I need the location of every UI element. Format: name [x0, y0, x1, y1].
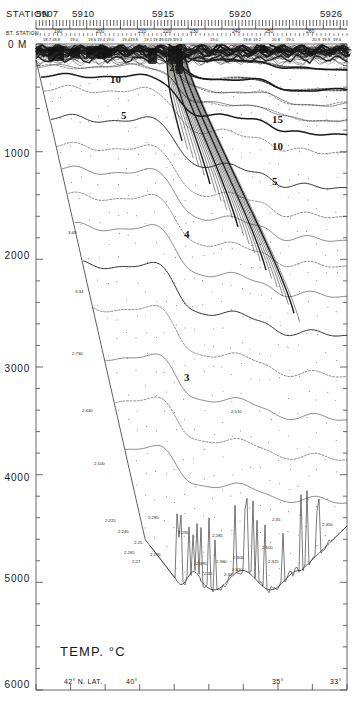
observation-point — [165, 90, 166, 91]
observation-point — [185, 328, 186, 329]
observation-point — [137, 411, 138, 412]
observation-point — [232, 149, 233, 150]
observation-point — [214, 517, 215, 518]
observation-point — [203, 255, 204, 256]
observation-point — [316, 399, 317, 400]
observation-point — [290, 553, 291, 554]
observation-point — [204, 479, 205, 480]
observation-point — [164, 253, 165, 254]
observation-point — [279, 534, 280, 535]
observation-point — [166, 546, 167, 547]
observation-point — [117, 281, 118, 282]
observation-point — [164, 372, 165, 373]
observation-point — [211, 213, 212, 214]
observation-point — [231, 213, 232, 214]
sea-floor-profile — [36, 60, 347, 593]
observation-point — [278, 344, 279, 345]
observation-point — [288, 436, 289, 437]
observation-point — [327, 154, 328, 155]
observation-point — [223, 56, 224, 57]
observation-point — [173, 179, 174, 180]
observation-point — [184, 419, 185, 420]
observation-point — [230, 56, 231, 57]
observation-point — [336, 471, 337, 472]
crowded-isotherm-patch — [276, 47, 282, 53]
observation-point — [241, 393, 242, 394]
observation-point — [173, 84, 174, 85]
observation-point — [166, 392, 167, 393]
observation-point — [269, 480, 270, 481]
observation-point — [250, 86, 251, 87]
observation-point — [155, 118, 156, 119]
observation-point — [145, 292, 146, 293]
observation-point — [241, 363, 242, 364]
observation-point — [270, 56, 271, 57]
observation-point — [336, 380, 337, 381]
observation-point — [135, 127, 136, 128]
observation-point — [299, 376, 300, 377]
observation-point — [156, 337, 157, 338]
observation-point — [241, 114, 242, 115]
crowded-isotherm-patch — [48, 47, 64, 61]
observation-point — [146, 168, 147, 169]
observation-point — [260, 244, 261, 245]
observation-point — [270, 355, 271, 356]
observation-point — [192, 306, 193, 307]
observation-point — [185, 200, 186, 201]
observation-point — [222, 490, 223, 491]
observation-point — [289, 180, 290, 181]
observation-point — [317, 316, 318, 317]
observation-point — [79, 198, 80, 199]
isotherm-line — [63, 166, 347, 241]
observation-point — [259, 221, 260, 222]
observation-point — [213, 329, 214, 330]
observation-point — [309, 446, 310, 447]
observation-point — [260, 505, 261, 506]
observation-point — [249, 212, 250, 213]
observation-point — [116, 338, 117, 339]
observation-point — [164, 273, 165, 274]
observation-point — [223, 200, 224, 201]
observation-point — [317, 153, 318, 154]
observation-point — [135, 243, 136, 244]
observation-point — [137, 283, 138, 284]
observation-point — [146, 426, 147, 427]
observation-point — [328, 74, 329, 75]
observation-point — [316, 125, 317, 126]
observation-point — [231, 401, 232, 402]
observation-point — [299, 151, 300, 152]
observation-point — [317, 334, 318, 335]
observation-point — [203, 515, 204, 516]
observation-point — [146, 74, 147, 75]
observation-point — [128, 395, 129, 396]
observation-point — [269, 267, 270, 268]
observation-point — [185, 513, 186, 514]
observation-point — [250, 319, 251, 320]
observation-point — [307, 417, 308, 418]
isotherm-line — [57, 142, 347, 217]
observation-point — [222, 230, 223, 231]
observation-point — [88, 258, 89, 259]
observation-point — [155, 471, 156, 472]
observation-point — [71, 91, 72, 92]
observation-point — [50, 83, 51, 84]
observation-point — [185, 246, 186, 247]
observation-point — [203, 572, 204, 573]
observation-point — [298, 535, 299, 536]
observation-point — [202, 280, 203, 281]
observation-point — [147, 262, 148, 263]
observation-point — [109, 212, 110, 213]
section-plot-canvas — [0, 0, 355, 702]
observation-point — [278, 187, 279, 188]
observation-point — [259, 380, 260, 381]
observation-point — [327, 189, 328, 190]
observation-point — [175, 216, 176, 217]
observation-point — [221, 530, 222, 531]
observation-point — [326, 272, 327, 273]
observation-point — [156, 301, 157, 302]
observation-point — [88, 122, 89, 123]
observation-point — [335, 75, 336, 76]
observation-point — [326, 56, 327, 57]
observation-point — [126, 168, 127, 169]
observation-point — [259, 571, 260, 572]
